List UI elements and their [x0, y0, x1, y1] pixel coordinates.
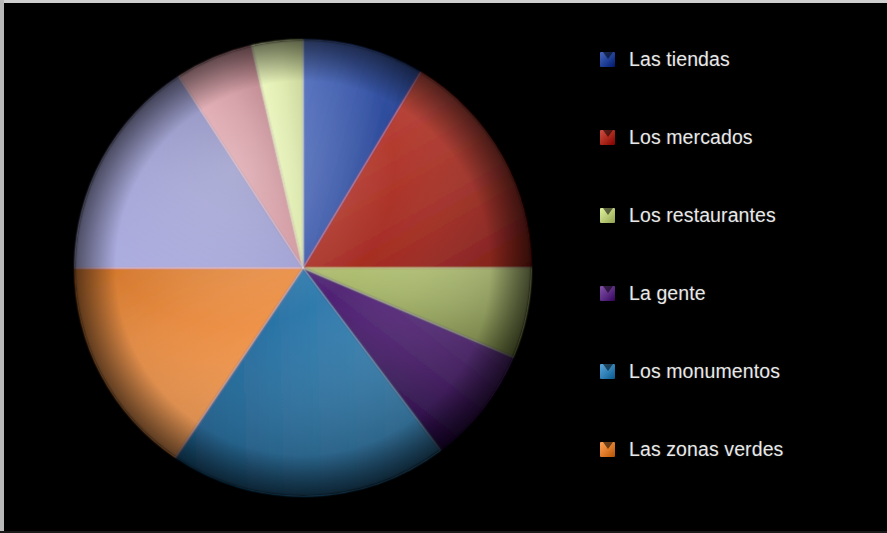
legend-item[interactable]: Los monumentos	[600, 359, 780, 383]
frame-border-left	[0, 0, 4, 533]
legend-swatch-icon	[600, 364, 615, 379]
legend-item[interactable]: Las zonas verdes	[600, 437, 783, 461]
legend-item-label: La gente	[629, 282, 706, 305]
legend-item-label: Los mercados	[629, 126, 753, 149]
legend-swatch-icon	[600, 286, 615, 301]
legend-swatch-icon	[600, 442, 615, 457]
legend-swatch-icon	[600, 130, 615, 145]
pie-rim-shading	[75, 40, 531, 496]
frame-border-top	[0, 0, 887, 3]
chart-canvas: Las tiendasLos mercadosLos restaurantesL…	[0, 0, 887, 533]
legend-item-label: Los restaurantes	[629, 204, 776, 227]
chart-legend: Las tiendasLos mercadosLos restaurantesL…	[600, 38, 870, 488]
legend-swatch-icon	[600, 208, 615, 223]
legend-item[interactable]: Los restaurantes	[600, 203, 776, 227]
legend-item[interactable]: Las tiendas	[600, 47, 730, 71]
pie-chart: Las tiendasLos mercadosLos restaurantesL…	[73, 38, 533, 498]
legend-item[interactable]: Los mercados	[600, 125, 753, 149]
legend-item-label: Los monumentos	[629, 360, 780, 383]
pie-chart-svg: Las tiendasLos mercadosLos restaurantesL…	[73, 38, 533, 498]
legend-item-label: Las tiendas	[629, 48, 730, 71]
legend-swatch-icon	[600, 52, 615, 67]
legend-item[interactable]: La gente	[600, 281, 706, 305]
legend-item-label: Las zonas verdes	[629, 438, 783, 461]
